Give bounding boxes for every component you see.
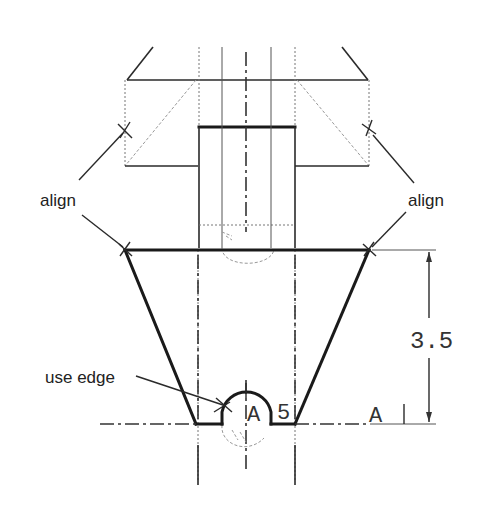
datum-label: A: [369, 404, 383, 429]
radius-prefix: A: [247, 403, 261, 428]
use-edge-label: use edge: [45, 368, 115, 387]
align-label-right: align: [408, 191, 444, 210]
technical-drawing: 3.5 A A 5 align align use edge: [0, 0, 479, 506]
align-label-left: align: [40, 191, 76, 210]
align-markers: [118, 120, 376, 412]
height-dimension: 3.5: [372, 250, 453, 422]
leader-lines: [79, 133, 414, 406]
height-dimension-value: 3.5: [410, 328, 453, 355]
central-boss: [199, 127, 295, 248]
upper-block: [125, 47, 369, 166]
trapezoid-section: [125, 250, 369, 424]
radius-value: 5: [277, 401, 290, 426]
